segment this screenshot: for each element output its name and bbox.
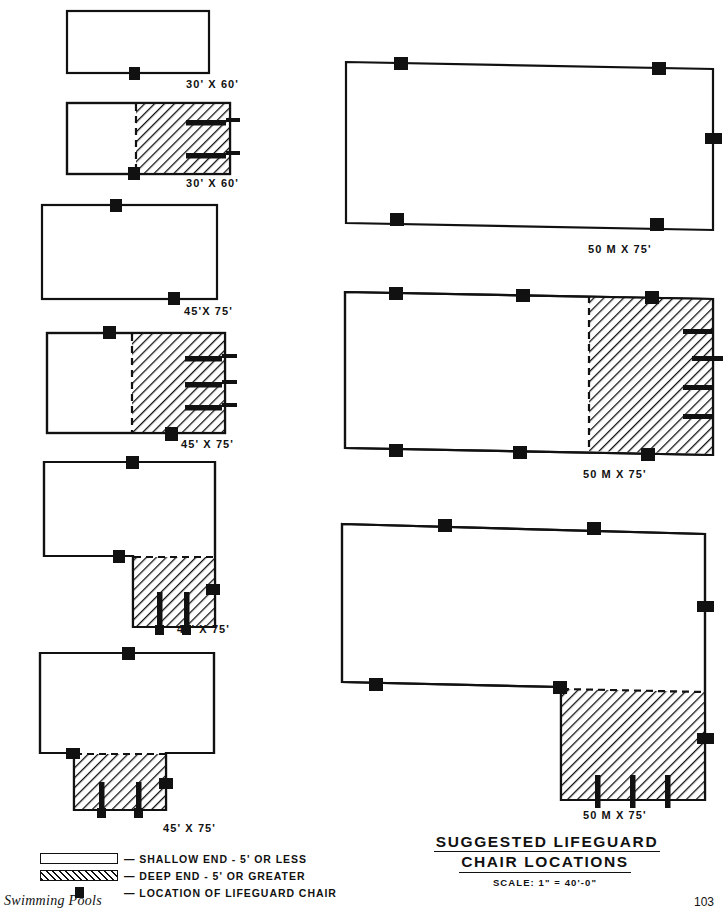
pool-dimension-label: 45' X 75'	[163, 822, 216, 834]
deep-end-area	[134, 557, 214, 626]
diving-board	[683, 414, 714, 419]
diving-board	[185, 405, 222, 411]
lifeguard-chair-marker	[705, 133, 722, 144]
lifeguard-chair-marker	[516, 289, 530, 302]
pool-45x75-deep	[47, 326, 237, 441]
lifeguard-chair-marker	[165, 427, 178, 441]
lifeguard-chair-marker	[587, 522, 601, 535]
pool-45x75-plain	[42, 199, 217, 305]
pool-50m-x-75-plain	[346, 57, 722, 231]
pool-45x75-t-shape	[40, 647, 214, 818]
legend-label: — SHALLOW END - 5' OR LESS	[124, 853, 307, 865]
pool-dimension-label: 45' X 75'	[177, 623, 230, 635]
deep-end-area	[136, 104, 229, 173]
diving-board	[157, 592, 163, 625]
diving-board	[184, 592, 190, 625]
diving-board-tip	[222, 354, 237, 358]
deep-end-area	[75, 754, 165, 809]
pool-50m-x-75-deep	[345, 287, 723, 461]
diving-board	[665, 775, 671, 808]
book-title-footer: Swimming Pools	[4, 893, 102, 909]
pool-dimension-label: 30' X 60'	[186, 78, 239, 90]
pool-plans-svg	[0, 0, 724, 914]
lifeguard-chair-marker	[113, 550, 125, 563]
lifeguard-chair-marker	[389, 444, 403, 457]
lifeguard-chair-marker	[159, 778, 173, 789]
pool-50m-x-75-l-shape	[342, 519, 714, 808]
lifeguard-chair-marker	[122, 647, 135, 660]
drawing-scale-note: SCALE: 1" = 40'-0"	[380, 877, 710, 888]
shallow-end-swatch-icon	[40, 853, 118, 864]
pool-30x60-deep	[67, 103, 240, 180]
legend-label: — DEEP END - 5' OR GREATER	[124, 870, 305, 882]
title-block: SUGGESTED LIFEGUARD CHAIR LOCATIONS SCAL…	[380, 833, 710, 888]
lifeguard-chair-marker	[369, 678, 383, 691]
pool-dimension-label: 45' X 75'	[181, 438, 234, 450]
lifeguard-chair-marker	[438, 519, 452, 532]
lifeguard-chair-marker	[126, 456, 139, 469]
diving-board	[683, 329, 714, 334]
drawing-title-line-2: CHAIR LOCATIONS	[459, 853, 631, 872]
diving-board-tip	[226, 118, 240, 122]
page-number: 103	[694, 895, 714, 909]
lifeguard-chair-marker	[110, 199, 122, 212]
deep-end-swatch-icon	[40, 870, 118, 881]
diving-board	[630, 775, 636, 808]
lifeguard-chair-marker	[389, 287, 403, 300]
diving-board	[683, 385, 714, 390]
pool-dimension-label: 45'X 75'	[184, 305, 233, 317]
lifeguard-chair-marker	[129, 67, 140, 80]
lifeguard-chair-marker	[513, 446, 527, 459]
lifeguard-chair-marker	[103, 326, 116, 339]
diving-board-tip	[97, 808, 106, 818]
diving-board-tip	[134, 808, 143, 818]
diving-board	[186, 153, 226, 159]
lifeguard-chair-marker	[206, 584, 220, 595]
lifeguard-chair-marker	[394, 57, 408, 70]
drawing-sheet: 30' X 60' 30' X 60' 45'X 75' 45' X 75' 4…	[0, 0, 724, 914]
diving-board	[185, 382, 222, 388]
lifeguard-chair-marker	[697, 733, 714, 744]
diving-board	[595, 775, 601, 808]
lifeguard-chair-marker	[66, 748, 80, 759]
lifeguard-chair-marker	[390, 213, 404, 226]
diving-board	[136, 782, 142, 810]
legend-label: — LOCATION OF LIFEGUARD CHAIR	[124, 887, 337, 899]
pool-45x75-l-shape	[44, 456, 220, 635]
legend-item-deep: — DEEP END - 5' OR GREATER	[40, 867, 380, 884]
pool-outline	[42, 205, 217, 299]
legend-item-shallow: — SHALLOW END - 5' OR LESS	[40, 850, 380, 867]
lifeguard-chair-marker	[168, 292, 180, 305]
pool-outline	[67, 11, 209, 73]
lifeguard-chair-marker	[652, 62, 666, 75]
diving-board	[692, 356, 723, 361]
lifeguard-chair-marker	[697, 601, 714, 612]
pool-dimension-label: 50 M X 75'	[583, 468, 647, 480]
lifeguard-chair-marker	[553, 681, 567, 694]
diving-board	[185, 356, 222, 362]
lifeguard-chair-marker	[641, 448, 655, 461]
diving-board-tip	[226, 151, 240, 155]
deep-end-area	[589, 296, 712, 454]
drawing-title-line-1: SUGGESTED LIFEGUARD	[434, 833, 660, 852]
diving-board-tip	[222, 403, 237, 407]
pool-outline	[346, 62, 713, 230]
lifeguard-chair-marker	[650, 218, 664, 231]
diving-board	[99, 782, 105, 810]
diving-board-tip	[222, 380, 237, 384]
pool-dimension-label: 30' X 60'	[186, 177, 239, 189]
lifeguard-chair-marker	[645, 291, 659, 304]
diving-board	[186, 120, 226, 126]
pool-dimension-label: 50 M X 75'	[588, 243, 652, 255]
lifeguard-chair-marker	[128, 167, 140, 180]
pool-dimension-label: 50 M X 75'	[583, 809, 647, 821]
pool-30x60-plain	[67, 11, 209, 80]
diving-board-tip	[155, 625, 164, 635]
